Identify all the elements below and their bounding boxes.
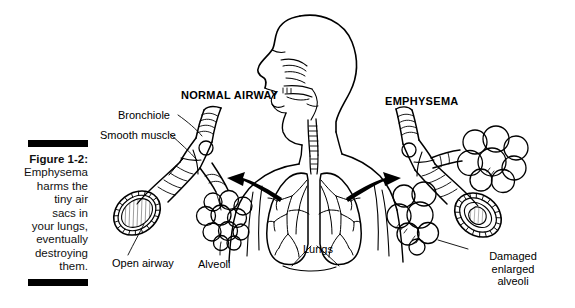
label-alveoli: Alveoli [198,258,230,271]
emphysema-airway-detail [387,107,528,255]
head-profile [229,15,403,262]
caption-rule-bottom [28,279,88,286]
label-open-airway: Open airway [112,257,174,270]
heading-emphysema: EMPHYSEMA [385,95,459,107]
heading-normal-airway: NORMAL AIRWAY [181,89,278,101]
caption-line-4: sacs in [0,207,88,220]
damaged-alveoli-lower [387,182,439,255]
label-damaged-line-1: Damaged [470,250,556,263]
caption-rule-top [28,140,88,147]
label-lungs: Lungs [303,243,333,256]
caption-line-7: destroying [0,247,88,260]
label-damaged-alveoli: Damaged enlarged alveoli [470,250,556,288]
caption-line-1: Emphysema [0,166,88,179]
label-smooth-muscle: Smooth muscle [100,129,176,142]
caption-line-5: your lungs, [0,220,88,233]
alveoli-cluster [197,191,253,251]
figure-canvas: Figure 1-2: Emphysema harms the tiny air… [0,0,575,308]
caption-text: Figure 1-2: Emphysema harms the tiny air… [0,153,108,274]
label-damaged-line-3: alveoli [470,275,556,288]
figure-number: Figure 1-2: [29,153,88,165]
caption-line-2: harms the [0,180,88,193]
damaged-alveoli-upper [458,126,529,193]
figure-caption: Figure 1-2: Emphysema harms the tiny air… [0,140,108,286]
label-damaged-line-2: enlarged [470,263,556,276]
label-bronchiole: Bronchiole [118,109,170,122]
caption-line-8: them. [0,260,88,273]
caption-line-3: tiny air [0,193,88,206]
caption-line-6: eventually [0,233,88,246]
